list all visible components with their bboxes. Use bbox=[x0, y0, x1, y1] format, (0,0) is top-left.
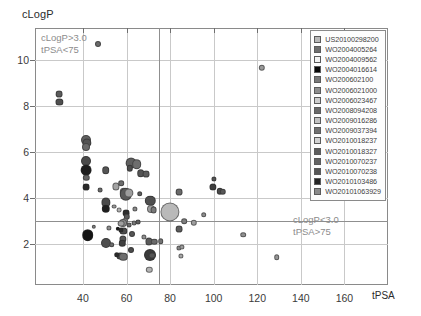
legend-item-label: WO2004005264 bbox=[325, 45, 377, 54]
y-tick-mark bbox=[30, 60, 35, 61]
data-point-bubble bbox=[109, 242, 115, 248]
legend-item[interactable]: WO200602100 bbox=[314, 75, 381, 85]
legend-swatch-icon bbox=[314, 158, 321, 165]
y-tick-mark bbox=[30, 106, 35, 107]
legend-item-label: WO2009016286 bbox=[325, 116, 377, 125]
legend-item[interactable]: WO2004016614 bbox=[314, 65, 381, 75]
legend-item[interactable]: WO2010103486 bbox=[314, 177, 381, 187]
legend-item-label: WO200602100 bbox=[325, 75, 373, 84]
plot-area: 246810 406080100120140160 cLogP>3.0 tPSA… bbox=[35, 28, 388, 285]
data-point-bubble bbox=[191, 219, 197, 225]
legend-item[interactable]: US20100298200 bbox=[314, 34, 381, 44]
x-tick-label: 40 bbox=[77, 285, 89, 304]
data-point-bubble bbox=[201, 212, 207, 218]
legend-item-label: WO2010103486 bbox=[325, 177, 377, 186]
legend-item[interactable]: WO2004009562 bbox=[314, 54, 381, 64]
legend-item-label: WO2006023467 bbox=[325, 96, 377, 105]
legend-item[interactable]: WO2009016286 bbox=[314, 116, 381, 126]
data-point-bubble bbox=[98, 188, 103, 193]
data-point-bubble bbox=[101, 205, 109, 213]
gridline-vertical bbox=[214, 28, 215, 285]
x-tick-label: 60 bbox=[121, 285, 133, 304]
data-point-bubble bbox=[92, 225, 96, 229]
data-point-bubble bbox=[95, 41, 101, 47]
legend-swatch-icon bbox=[314, 148, 321, 155]
legend-item-label: WO2004009562 bbox=[325, 55, 377, 64]
data-point-bubble bbox=[258, 65, 264, 71]
data-point-bubble bbox=[179, 244, 184, 249]
y-axis-title: cLogP bbox=[22, 8, 54, 20]
data-point-bubble bbox=[124, 188, 133, 197]
x-tick-label: 140 bbox=[292, 285, 310, 304]
quadrant-line-tpsa bbox=[159, 28, 160, 285]
data-point-bubble bbox=[82, 143, 90, 151]
data-point-bubble bbox=[143, 171, 150, 178]
data-point-bubble bbox=[114, 252, 120, 258]
data-point-bubble bbox=[146, 267, 152, 273]
legend-item[interactable]: WO2010070237 bbox=[314, 156, 381, 166]
legend-item-label: WO2008094208 bbox=[325, 106, 377, 115]
legend-item-label: WO2010018327 bbox=[325, 147, 377, 156]
legend-swatch-icon bbox=[314, 87, 321, 94]
legend-swatch-icon bbox=[314, 76, 321, 83]
legend-item[interactable]: WO2006021000 bbox=[314, 85, 381, 95]
legend-swatch-icon bbox=[314, 36, 321, 43]
data-point-bubble bbox=[129, 231, 135, 237]
gridline-horizontal bbox=[35, 244, 388, 245]
data-point-bubble bbox=[182, 218, 188, 224]
data-point-bubble bbox=[274, 254, 280, 260]
data-point-bubble bbox=[161, 202, 180, 221]
data-point-bubble bbox=[81, 164, 92, 175]
data-point-bubble bbox=[178, 253, 183, 258]
data-point-bubble bbox=[117, 220, 124, 227]
gridline-vertical bbox=[127, 28, 128, 285]
legend-item[interactable]: WO2004005264 bbox=[314, 44, 381, 54]
legend-swatch-icon bbox=[314, 188, 321, 195]
data-point-bubble bbox=[83, 184, 90, 191]
legend-swatch-icon bbox=[314, 168, 321, 175]
legend-item[interactable]: WO2010018237 bbox=[314, 136, 381, 146]
legend-swatch-icon bbox=[314, 117, 321, 124]
x-tick-mark bbox=[257, 28, 258, 33]
x-tick-label: 160 bbox=[336, 285, 354, 304]
data-point-bubble bbox=[82, 230, 94, 242]
data-point-bubble bbox=[127, 165, 133, 171]
data-point-bubble bbox=[211, 176, 216, 181]
y-tick-mark bbox=[30, 152, 35, 153]
legend-item[interactable]: WO20101063929 bbox=[314, 187, 381, 197]
y-tick-mark bbox=[30, 198, 35, 199]
gridline-vertical bbox=[301, 28, 302, 285]
data-point-bubble bbox=[117, 208, 122, 213]
legend-swatch-icon bbox=[314, 46, 321, 53]
x-tick-mark bbox=[127, 28, 128, 33]
data-point-bubble bbox=[127, 222, 132, 227]
x-tick-mark bbox=[170, 28, 171, 33]
legend-item[interactable]: WO2006023467 bbox=[314, 95, 381, 105]
legend-swatch-icon bbox=[314, 97, 321, 104]
data-point-bubble bbox=[119, 240, 125, 246]
legend-item-label: US20100298200 bbox=[325, 35, 378, 44]
data-point-bubble bbox=[111, 204, 116, 209]
data-point-bubble bbox=[132, 160, 142, 170]
legend-item-label: WO2009037394 bbox=[325, 126, 377, 135]
x-tick-mark bbox=[214, 28, 215, 33]
legend-item[interactable]: WO2010070238 bbox=[314, 166, 381, 176]
annotation-lower-right: cLogP<3.0 tPSA>75 bbox=[293, 214, 339, 237]
legend-item-label: WO2010070238 bbox=[325, 167, 377, 176]
legend-item[interactable]: WO2008094208 bbox=[314, 105, 381, 115]
legend-item[interactable]: WO2010018327 bbox=[314, 146, 381, 156]
data-point-bubble bbox=[176, 226, 183, 233]
data-point-bubble bbox=[175, 189, 182, 196]
x-axis-title: tPSA bbox=[372, 290, 395, 301]
data-point-bubble bbox=[102, 166, 110, 174]
data-point-bubble bbox=[220, 189, 226, 195]
legend-swatch-icon bbox=[314, 107, 321, 114]
legend-item[interactable]: WO2009037394 bbox=[314, 126, 381, 136]
scatter-chart-figure: cLogP tPSA 246810 406080100120140160 cLo… bbox=[0, 0, 421, 316]
x-tick-label: 80 bbox=[164, 285, 176, 304]
data-point-bubble bbox=[118, 180, 124, 186]
data-point-bubble bbox=[106, 225, 111, 230]
data-point-bubble bbox=[133, 206, 138, 211]
data-point-bubble bbox=[150, 207, 157, 214]
chart-legend: US20100298200WO2004005264WO2004009562WO2… bbox=[310, 30, 386, 201]
